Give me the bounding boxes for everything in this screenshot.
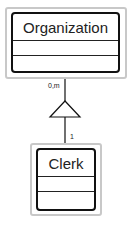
multiplicity-label: 1 bbox=[70, 133, 74, 140]
generalization-triangle-icon bbox=[50, 101, 80, 117]
clerk-class[interactable]: Clerk bbox=[36, 148, 96, 211]
operations-compartment bbox=[13, 56, 118, 71]
attributes-compartment bbox=[38, 177, 94, 192]
attributes-compartment bbox=[13, 41, 118, 56]
class-name: Organization bbox=[13, 14, 118, 41]
organization-class[interactable]: Organization bbox=[11, 12, 120, 73]
class-name: Clerk bbox=[38, 150, 94, 177]
multiplicity-label: 0,m bbox=[48, 82, 60, 89]
operations-compartment bbox=[38, 192, 94, 209]
